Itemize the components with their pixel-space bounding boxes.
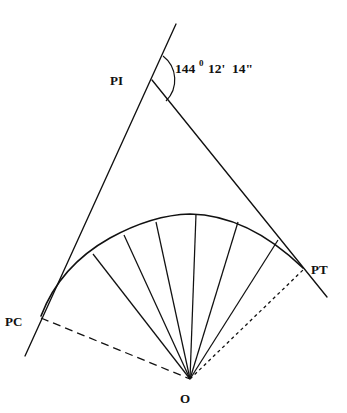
angle-label-group: 144 0 12' 14" (175, 58, 253, 76)
label-center-o: O (180, 391, 190, 406)
label-pt: PT (311, 262, 328, 277)
label-pi: PI (110, 73, 123, 88)
radial-line-4 (190, 214, 196, 379)
angle-degrees-value: 144 (175, 61, 196, 76)
radial-line-6 (190, 240, 278, 379)
diagram-canvas: PI PC PT O 144 0 12' 14" (0, 0, 347, 413)
angle-seconds-value: 14" (232, 61, 253, 76)
label-pc: PC (5, 314, 22, 329)
radius-line-pc-to-center (41, 318, 190, 379)
circular-curve-arc (41, 214, 303, 316)
radial-line-3 (156, 222, 190, 379)
degree-symbol: 0 (199, 58, 204, 68)
curve-diagram-svg: PI PC PT O 144 0 12' 14" (0, 0, 347, 413)
angle-minutes-value: 12' (208, 61, 225, 76)
radial-lines-group (93, 214, 278, 379)
forward-tangent-line (152, 80, 327, 297)
back-tangent-line (25, 24, 176, 356)
intersection-angle-arc (163, 56, 175, 101)
